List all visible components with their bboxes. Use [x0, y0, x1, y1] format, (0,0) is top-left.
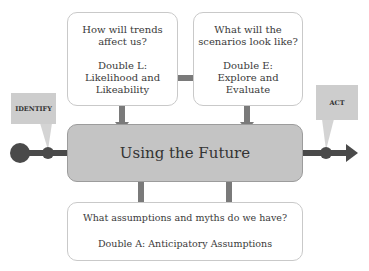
- double-l-title-line-2: Likelihood and: [68, 72, 177, 84]
- identify-callout-tail: [40, 123, 52, 150]
- identify-callout: IDENTIFY: [11, 93, 56, 124]
- center-label: Using the Future: [120, 144, 250, 162]
- double-e-question-line-2: scenarios look like?: [194, 36, 302, 48]
- double-l-box: How will trends affect us? Double L: Lik…: [67, 12, 178, 106]
- double-e-box: What will the scenarios look like? Doubl…: [193, 12, 303, 106]
- double-a-question: What assumptions and myths do we have?: [68, 212, 302, 224]
- act-callout: ACT: [316, 85, 358, 120]
- double-l-title-line-3: Likeability: [68, 84, 177, 96]
- double-l-question-line-2: affect us?: [68, 36, 177, 48]
- double-l-title-line-1: Double L:: [68, 60, 177, 72]
- double-a-box: What assumptions and myths do we have? D…: [67, 202, 303, 261]
- act-node-icon: [320, 147, 332, 159]
- double-a-title: Double A: Anticipatory Assumptions: [68, 238, 302, 250]
- double-e-question-line-1: What will the: [194, 24, 302, 36]
- start-node-icon: [10, 143, 30, 163]
- act-label: ACT: [329, 99, 344, 107]
- double-l-question-line-1: How will trends: [68, 24, 177, 36]
- identify-label: IDENTIFY: [15, 105, 52, 113]
- right-arrowhead-icon: [346, 144, 358, 162]
- double-e-title-line-3: Evaluate: [194, 84, 302, 96]
- double-e-title-line-1: Double E:: [194, 60, 302, 72]
- double-e-title-line-2: Explore and: [194, 72, 302, 84]
- identify-node-icon: [42, 147, 54, 159]
- act-callout-tail: [322, 119, 334, 150]
- using-the-future-box: Using the Future: [67, 124, 303, 182]
